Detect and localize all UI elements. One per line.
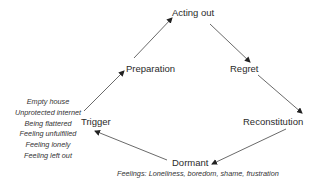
arrow-preparation-to-acting-out (134, 18, 172, 58)
trigger-item: Empty house (10, 97, 86, 108)
node-acting-out: Acting out (172, 8, 214, 18)
arrow-trigger-to-preparation (84, 71, 124, 111)
arrow-regret-to-reconstitution (258, 75, 302, 113)
dormant-feelings-note: Feelings: Loneliness, boredom, shame, fr… (117, 170, 279, 177)
trigger-list: Empty house Unprotected internet Being f… (10, 97, 86, 162)
node-regret: Regret (230, 64, 259, 74)
trigger-item: Unprotected internet (10, 108, 86, 119)
node-preparation: Preparation (126, 64, 175, 74)
node-reconstitution: Reconstitution (243, 117, 303, 127)
cycle-diagram: Acting out Regret Reconstitution Dormant… (0, 0, 311, 189)
arrow-reconstitution-to-dormant (212, 129, 286, 164)
trigger-item: Feeling unfulfilled (10, 129, 86, 140)
trigger-item: Feeling lonely (10, 140, 86, 151)
trigger-item: Being flattered (10, 119, 86, 130)
arrow-acting-out-to-regret (210, 24, 250, 62)
trigger-item: Feeling left out (10, 151, 86, 162)
arrow-dormant-to-trigger (95, 131, 167, 160)
node-dormant: Dormant (172, 158, 208, 168)
